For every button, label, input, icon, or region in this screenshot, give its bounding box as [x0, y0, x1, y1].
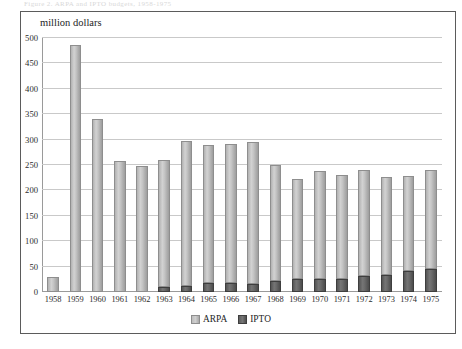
bar-slot — [309, 38, 331, 292]
bar-segment-arpa[interactable] — [358, 170, 370, 277]
y-tick-label: 200 — [4, 185, 38, 195]
x-tick-label: 1965 — [200, 295, 217, 304]
y-tick-label: 50 — [4, 262, 38, 272]
x-tick-label: 1963 — [156, 295, 173, 304]
bar-slot — [286, 38, 308, 292]
bar-segment-ipto[interactable] — [270, 281, 282, 292]
bar-segment-ipto[interactable] — [225, 283, 237, 292]
bar-group — [42, 38, 442, 292]
bar-segment-arpa[interactable] — [70, 45, 82, 292]
bar-slot — [42, 38, 64, 292]
bar-slot — [86, 38, 108, 292]
bar-segment-arpa[interactable] — [47, 277, 59, 292]
bar-segment-arpa[interactable] — [203, 145, 215, 283]
bar-segment-arpa[interactable] — [314, 171, 326, 279]
bar-segment-ipto[interactable] — [358, 276, 370, 292]
bar-segment-ipto[interactable] — [292, 279, 304, 292]
legend-swatch-icon — [191, 315, 200, 324]
legend-swatch-icon — [238, 315, 247, 324]
bar-slot — [64, 38, 86, 292]
bar-segment-ipto[interactable] — [247, 284, 259, 292]
x-tick-label: 1962 — [134, 295, 151, 304]
bar-slot — [220, 38, 242, 292]
bar-segment-ipto[interactable] — [314, 279, 326, 292]
bar-segment-arpa[interactable] — [381, 177, 393, 275]
bar-slot — [420, 38, 442, 292]
y-tick-label: 300 — [4, 135, 38, 145]
y-tick-label: 100 — [4, 236, 38, 246]
x-tick-label: 1967 — [245, 295, 262, 304]
bar-slot — [175, 38, 197, 292]
y-tick-label: 500 — [4, 33, 38, 43]
bar-segment-arpa[interactable] — [247, 142, 259, 284]
x-tick-label: 1972 — [356, 295, 373, 304]
bar-segment-arpa[interactable] — [403, 176, 415, 272]
y-tick-label: 450 — [4, 58, 38, 68]
y-tick-label: 150 — [4, 211, 38, 221]
x-tick-label: 1969 — [289, 295, 306, 304]
y-axis-label: million dollars — [40, 17, 102, 28]
x-tick-label: 1975 — [423, 295, 440, 304]
y-tick-label: 0 — [4, 287, 38, 297]
bar-segment-ipto[interactable] — [336, 279, 348, 292]
x-tick-label: 1959 — [67, 295, 84, 304]
bar-segment-arpa[interactable] — [225, 144, 237, 284]
bar-segment-arpa[interactable] — [158, 160, 170, 287]
bar-slot — [375, 38, 397, 292]
bar-segment-ipto[interactable] — [381, 275, 393, 292]
bar-slot — [242, 38, 264, 292]
bar-segment-arpa[interactable] — [270, 165, 282, 282]
legend-item-ipto[interactable]: IPTO — [238, 314, 271, 324]
legend-item-arpa[interactable]: ARPA — [191, 314, 227, 324]
plot-area — [42, 38, 442, 292]
bar-segment-ipto[interactable] — [425, 269, 437, 292]
bar-segment-arpa[interactable] — [114, 161, 126, 292]
bar-slot — [131, 38, 153, 292]
bar-segment-arpa[interactable] — [292, 179, 304, 280]
x-tick-label: 1973 — [378, 295, 395, 304]
x-tick-label: 1964 — [178, 295, 195, 304]
legend-label: IPTO — [250, 314, 271, 324]
chart-figure: Figure 2. ARPA and IPTO budgets, 1958-19… — [0, 0, 462, 349]
bar-segment-arpa[interactable] — [336, 175, 348, 279]
bar-segment-ipto[interactable] — [203, 283, 215, 292]
x-tick-label: 1958 — [45, 295, 62, 304]
y-axis-tick-labels: 500450400350300250200150100500 — [0, 38, 38, 292]
x-tick-label: 1960 — [89, 295, 106, 304]
bar-slot — [398, 38, 420, 292]
bar-slot — [264, 38, 286, 292]
y-tick-label: 400 — [4, 84, 38, 94]
x-tick-label: 1971 — [334, 295, 351, 304]
bar-segment-arpa[interactable] — [92, 119, 104, 292]
bar-segment-arpa[interactable] — [181, 141, 193, 286]
x-tick-label: 1968 — [267, 295, 284, 304]
x-tick-label: 1966 — [223, 295, 240, 304]
legend-label: ARPA — [203, 314, 227, 324]
bar-slot — [198, 38, 220, 292]
bar-segment-arpa[interactable] — [425, 170, 437, 269]
x-tick-label: 1970 — [311, 295, 328, 304]
x-tick-label: 1974 — [400, 295, 417, 304]
bar-segment-arpa[interactable] — [136, 166, 148, 292]
bar-slot — [331, 38, 353, 292]
clipped-caption-text: Figure 2. ARPA and IPTO budgets, 1958-19… — [0, 0, 462, 9]
x-tick-label: 1961 — [111, 295, 128, 304]
bar-segment-ipto[interactable] — [403, 271, 415, 292]
bar-slot — [109, 38, 131, 292]
y-tick-label: 350 — [4, 109, 38, 119]
bar-segment-ipto[interactable] — [181, 286, 193, 292]
y-tick-label: 250 — [4, 160, 38, 170]
chart-legend: ARPAIPTO — [0, 314, 462, 324]
bar-slot — [353, 38, 375, 292]
bar-slot — [153, 38, 175, 292]
x-axis-tick-labels: 1958195919601961196219631964196519661967… — [42, 295, 442, 309]
bar-segment-ipto[interactable] — [158, 287, 170, 292]
